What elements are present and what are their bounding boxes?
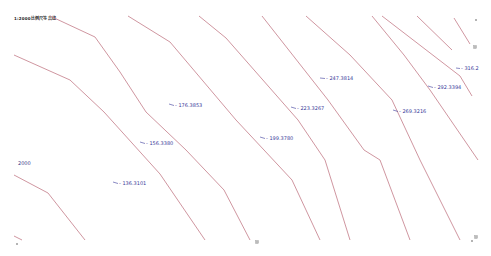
contour-elevation-text: - 176.3853 bbox=[175, 102, 202, 108]
label-leader-tick bbox=[260, 137, 265, 139]
contour-elevation-text: - 136.3101 bbox=[119, 180, 146, 186]
contour-line bbox=[14, 55, 205, 240]
point-top-right-icon bbox=[475, 19, 477, 21]
contour-elevation-text: - 156.3380 bbox=[146, 140, 173, 146]
point-bottom-right-icon bbox=[471, 240, 473, 242]
contour-label: - 292.3394 bbox=[428, 84, 461, 90]
contour-elevation-text: - 223.3267 bbox=[297, 105, 324, 111]
contour-line bbox=[50, 16, 250, 240]
label-leader-tick bbox=[140, 142, 145, 144]
contour-label: - 316.2 bbox=[456, 65, 479, 71]
contour-lines bbox=[14, 16, 478, 240]
contour-elevation-text: - 247.3814 bbox=[326, 75, 353, 81]
label-leader-tick bbox=[169, 104, 174, 106]
contour-label: - 136.3101 bbox=[113, 180, 146, 186]
contour-map-canvas[interactable]: - 176.3853- 156.3380- 136.3101- 199.3780… bbox=[0, 0, 491, 256]
marker-top-right-icon bbox=[474, 46, 477, 49]
contour-line bbox=[417, 16, 452, 50]
label-leader-tick bbox=[113, 182, 118, 184]
contour-elevation-text: - 316.2 bbox=[461, 65, 479, 71]
marker-bottom-right-icon bbox=[475, 236, 478, 239]
contour-line bbox=[372, 16, 478, 160]
contour-label: - 199.3780 bbox=[260, 135, 293, 141]
contour-line bbox=[14, 236, 22, 240]
label-leader-tick bbox=[320, 78, 325, 79]
contour-label: - 176.3853 bbox=[169, 102, 202, 108]
contour-label: - 223.3267 bbox=[291, 105, 324, 111]
contour-line bbox=[14, 175, 85, 240]
label-leader-tick bbox=[291, 107, 296, 109]
contour-label: - 156.3380 bbox=[140, 140, 173, 146]
contour-line bbox=[199, 16, 350, 240]
contour-elevation-text: - 199.3780 bbox=[266, 135, 293, 141]
marker-bottom-center-icon bbox=[256, 241, 259, 244]
contour-elevation-text: - 292.3394 bbox=[434, 84, 461, 90]
label-leader-tick bbox=[428, 86, 433, 88]
contour-elevation-text: - 269.3216 bbox=[399, 108, 426, 114]
contour-line bbox=[454, 18, 470, 44]
contour-line bbox=[128, 16, 320, 240]
contour-line bbox=[262, 16, 410, 240]
contour-line bbox=[306, 16, 460, 240]
point-bottom-left-icon bbox=[16, 243, 18, 245]
contour-label: - 247.3814 bbox=[320, 75, 353, 81]
label-leader-tick bbox=[456, 68, 460, 69]
